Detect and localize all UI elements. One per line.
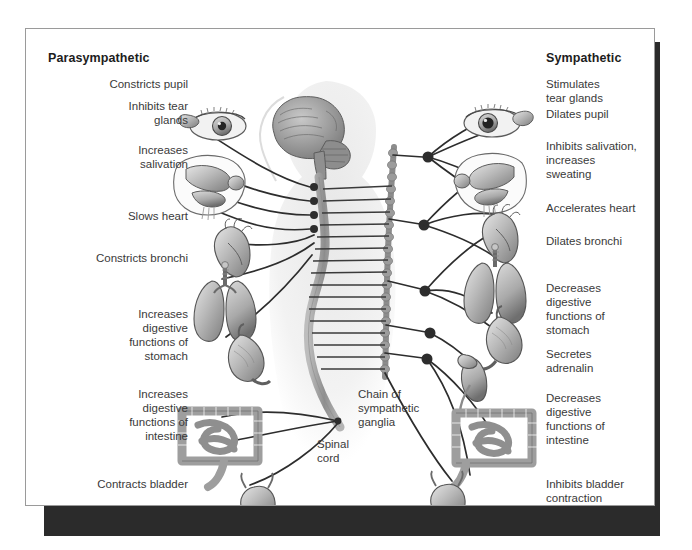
heading-sympathetic: Sympathetic xyxy=(546,51,655,66)
right-tear-gland xyxy=(513,111,533,125)
label-stimulates-tear-glands: Stimulates tear glands xyxy=(546,77,655,105)
figure-stage: Parasympathetic Constricts pupil Inhibit… xyxy=(0,0,692,550)
left-duodenum xyxy=(252,379,270,384)
label-inhibits-tear-glands: Inhibits tear glands xyxy=(36,99,188,127)
right-larynx xyxy=(492,244,499,251)
label-dilates-bronchi: Dilates bronchi xyxy=(546,234,655,248)
right-lung-left xyxy=(464,263,494,323)
left-parotid-gland xyxy=(228,176,244,190)
right-bladder xyxy=(431,484,465,506)
left-bladder xyxy=(241,486,275,506)
left-eye-group xyxy=(178,107,246,140)
right-ureter-l xyxy=(431,471,436,486)
left-bladder-group xyxy=(241,473,275,506)
label-accelerates-heart: Accelerates heart xyxy=(546,201,655,215)
label-increases-salivation: Increases salivation xyxy=(36,143,188,171)
right-stomach xyxy=(486,317,522,363)
label-decreases-digestive-stomach: Decreases digestive functions of stomach xyxy=(546,281,655,337)
label-decreases-digestive-intestine: Decreases digestive functions of intesti… xyxy=(546,391,655,447)
right-adrenal-gland xyxy=(458,355,477,369)
left-heart-group xyxy=(214,218,252,277)
label-inhibits-bladder-contraction: Inhibits bladder contraction xyxy=(546,477,655,505)
label-dilates-pupil: Dilates pupil xyxy=(546,107,655,121)
label-chain-of-sympathetic-ganglia: Chain of sympathetic ganglia xyxy=(358,387,448,429)
right-eye-group xyxy=(464,104,533,137)
diagram-card: Parasympathetic Constricts pupil Inhibit… xyxy=(25,28,655,506)
left-larynx xyxy=(222,262,229,269)
label-increases-digestive-stomach: Increases digestive functions of stomach xyxy=(36,307,188,363)
left-stomach xyxy=(228,335,264,381)
right-lung-right xyxy=(496,263,526,323)
label-secretes-adrenalin: Secretes adrenalin xyxy=(546,347,655,375)
heading-parasympathetic: Parasympathetic xyxy=(48,51,188,66)
label-inhibits-salivation: Inhibits salivation, increases sweating xyxy=(546,139,655,181)
label-constricts-pupil: Constricts pupil xyxy=(36,77,188,91)
left-intestine-group xyxy=(178,407,263,487)
right-parotid-gland xyxy=(454,174,470,188)
left-lung-left xyxy=(194,281,224,341)
label-contracts-bladder: Contracts bladder xyxy=(36,477,188,491)
left-small-intestine xyxy=(198,423,235,452)
label-slows-heart: Slows heart xyxy=(36,209,188,223)
right-salivary-head-group xyxy=(454,153,526,218)
left-heart xyxy=(214,227,250,277)
label-spinal-cord: Spinal cord xyxy=(317,437,387,465)
label-increases-digestive-intestine: Increases digestive functions of intesti… xyxy=(36,387,188,443)
label-constricts-bronchi: Constricts bronchi xyxy=(36,251,188,265)
right-pupil xyxy=(482,117,493,128)
right-small-intestine xyxy=(472,425,509,454)
right-lungs-group xyxy=(464,244,526,324)
right-heart xyxy=(482,213,518,263)
left-ureter-l xyxy=(241,473,246,488)
left-lung-right xyxy=(226,281,256,341)
left-ureter-r xyxy=(268,473,273,488)
